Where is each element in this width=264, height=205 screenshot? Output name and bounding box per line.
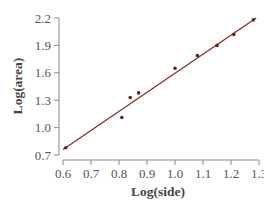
y-tick-label: 0.7 [35,148,52,163]
data-point [120,116,124,120]
y-tick-label: 1.3 [35,93,51,108]
data-point [128,96,132,100]
x-tick-label: 0.9 [139,166,155,181]
data-point [232,33,236,37]
data-point [64,146,68,150]
data-point [196,54,200,58]
y-tick-label: 2.2 [35,11,51,26]
scatter-chart: 0.71.01.31.61.92.20.60.70.80.91.01.11.21… [0,0,264,205]
y-tick-label: 1.0 [35,120,51,135]
x-tick-label: 0.8 [111,166,127,181]
y-tick-label: 1.9 [35,38,51,53]
data-point [215,44,219,48]
x-axis-title: Log(side) [131,184,185,199]
x-tick-label: 0.7 [83,166,100,181]
regression-line [63,18,256,150]
data-point [173,66,177,70]
x-tick-label: 1.3 [251,166,264,181]
x-tick-label: 1.0 [167,166,183,181]
data-point [252,18,256,22]
x-tick-label: 1.1 [195,166,211,181]
y-axis-title: Log(area) [10,58,25,115]
x-tick-label: 0.6 [55,166,72,181]
y-tick-label: 1.6 [35,65,52,80]
data-point [137,91,141,95]
x-tick-label: 1.2 [223,166,239,181]
